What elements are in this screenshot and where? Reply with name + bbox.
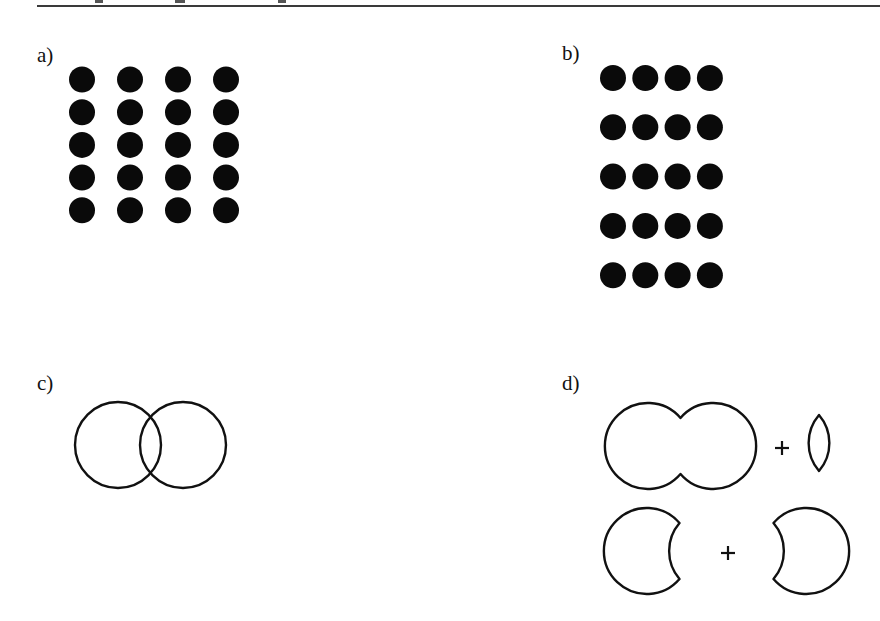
dot-b-r3-c2 (632, 164, 658, 190)
left-crescent-shape (604, 508, 680, 594)
dot-b-r5-c2 (632, 262, 658, 288)
panel-c: c) (37, 371, 226, 488)
dot-a-r1-c4 (213, 67, 239, 93)
union-outline-shape (605, 403, 756, 489)
dot-a-r2-c1 (69, 99, 95, 125)
panel-a: a) (37, 43, 239, 223)
dot-b-r2-c2 (632, 114, 658, 140)
dot-b-r3-c4 (697, 164, 723, 190)
dot-a-r3-c1 (69, 132, 95, 158)
panel-b-label: b) (562, 41, 580, 65)
left-circle (75, 402, 161, 488)
dot-b-r4-c1 (600, 213, 626, 239)
dot-a-r1-c3 (165, 67, 191, 93)
dot-a-r4-c3 (165, 165, 191, 191)
dot-a-r5-c4 (213, 197, 239, 223)
figure-canvas: a) b) c) d) (0, 0, 880, 621)
dot-a-r5-c3 (165, 197, 191, 223)
panel-a-label: a) (37, 43, 53, 67)
dot-b-r2-c3 (665, 114, 691, 140)
plus-sign-top (775, 441, 789, 455)
panel-b: b) (562, 41, 723, 288)
dot-b-r3-c3 (665, 164, 691, 190)
dot-b-r5-c4 (697, 262, 723, 288)
dot-a-r4-c2 (117, 165, 143, 191)
dot-a-r3-c2 (117, 132, 143, 158)
dot-b-r2-c1 (600, 114, 626, 140)
dot-a-r4-c4 (213, 165, 239, 191)
right-circle (140, 402, 226, 488)
dot-b-r3-c1 (600, 164, 626, 190)
dot-grid-b (600, 65, 723, 288)
lens-shape (809, 415, 830, 471)
dot-a-r2-c4 (213, 99, 239, 125)
dot-a-r3-c3 (165, 132, 191, 158)
dot-b-r4-c2 (632, 213, 658, 239)
dot-b-r1-c4 (697, 65, 723, 91)
dot-b-r1-c1 (600, 65, 626, 91)
panel-d: d) (562, 371, 849, 594)
panel-c-label: c) (37, 371, 53, 395)
header-text-descenders (95, 0, 286, 3)
right-crescent-shape (774, 508, 850, 594)
dot-a-r2-c3 (165, 99, 191, 125)
dot-b-r1-c3 (665, 65, 691, 91)
dot-grid-a (69, 67, 239, 224)
dot-b-r1-c2 (632, 65, 658, 91)
dot-a-r4-c1 (69, 165, 95, 191)
dot-b-r2-c4 (697, 114, 723, 140)
panel-d-label: d) (562, 371, 580, 395)
dot-a-r1-c1 (69, 67, 95, 93)
dot-b-r5-c3 (665, 262, 691, 288)
dot-b-r4-c3 (665, 213, 691, 239)
dot-a-r1-c2 (117, 67, 143, 93)
dot-a-r5-c1 (69, 197, 95, 223)
dot-b-r5-c1 (600, 262, 626, 288)
dot-a-r5-c2 (117, 197, 143, 223)
dot-a-r3-c4 (213, 132, 239, 158)
dot-b-r4-c4 (697, 213, 723, 239)
dot-a-r2-c2 (117, 99, 143, 125)
plus-sign-bottom (721, 546, 735, 560)
